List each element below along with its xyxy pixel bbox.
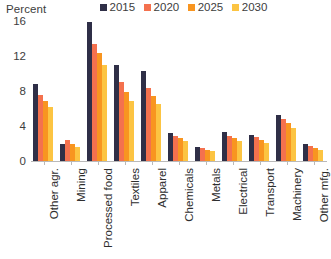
bar-group (87, 21, 107, 161)
chart-legend: 2015202020252030 (100, 2, 267, 14)
x-axis-category-label: Chemicals (184, 168, 196, 222)
y-axis-tick-label: 16 (0, 15, 26, 27)
legend-item[interactable]: 2030 (232, 2, 267, 14)
y-axis-tick-label: 4 (0, 120, 26, 132)
bar[interactable] (75, 147, 80, 161)
x-axis-category-label: Processed food (103, 168, 115, 248)
bar[interactable] (48, 107, 53, 161)
legend-swatch-icon (144, 4, 151, 11)
x-axis-tick-mark (260, 162, 261, 165)
x-axis-tick-mark (71, 162, 72, 165)
legend-item[interactable]: 2025 (188, 2, 223, 14)
y-axis-tick-label: 12 (0, 50, 26, 62)
x-axis-tick-mark (314, 162, 315, 165)
bar[interactable] (291, 128, 296, 161)
legend-item[interactable]: 2015 (100, 2, 135, 14)
bar-group (114, 21, 134, 161)
bar[interactable] (318, 150, 323, 161)
x-axis-category-label: Mining (76, 168, 88, 202)
chart-figure: Percent 2015202020252030 0481216 Other a… (0, 0, 331, 259)
bar-group (276, 21, 296, 161)
legend-swatch-icon (188, 4, 195, 11)
bar[interactable] (129, 101, 134, 161)
legend-item[interactable]: 2020 (144, 2, 179, 14)
legend-swatch-icon (232, 4, 239, 11)
bar-group (60, 21, 80, 161)
x-axis-tick-mark (233, 162, 234, 165)
legend-label: 2015 (110, 2, 136, 14)
x-axis-tick-mark (44, 162, 45, 165)
x-axis-category-label: Other mfg. (319, 168, 331, 222)
bar[interactable] (210, 151, 215, 161)
bar-group (222, 21, 242, 161)
y-axis-unit-label: Percent (6, 3, 46, 15)
bar-group (168, 21, 188, 161)
bar[interactable] (264, 143, 269, 161)
x-axis-category-label: Other agr. (49, 168, 61, 219)
bar-group (33, 21, 53, 161)
bar-group (249, 21, 269, 161)
x-axis-tick-mark (152, 162, 153, 165)
bar[interactable] (156, 104, 161, 161)
x-axis-category-label: Textiles (130, 168, 142, 206)
legend-label: 2020 (154, 2, 180, 14)
x-axis-tick-mark (206, 162, 207, 165)
bar[interactable] (183, 141, 188, 161)
x-axis-labels: Other agr.MiningProcessed foodTextilesAp… (31, 166, 327, 259)
bar[interactable] (237, 141, 242, 161)
x-axis-tick-mark (125, 162, 126, 165)
bar-groups-container (31, 20, 327, 161)
x-axis-category-label: Apparel (157, 168, 169, 208)
bar-group (141, 21, 161, 161)
chart-header: Percent 2015202020252030 (0, 0, 331, 20)
legend-label: 2030 (242, 2, 268, 14)
legend-label: 2025 (198, 2, 224, 14)
x-axis-tick-mark (179, 162, 180, 165)
plot-area: 0481216 (0, 20, 331, 166)
bar[interactable] (102, 65, 107, 161)
x-axis-category-label: Transport (265, 168, 277, 217)
x-axis-category-label: Machinery (292, 168, 304, 221)
y-axis-tick-label: 0 (0, 155, 26, 167)
x-axis-category-label: Electrical (238, 168, 250, 215)
x-axis-tick-mark (287, 162, 288, 165)
legend-swatch-icon (100, 4, 107, 11)
x-axis-tick-mark (98, 162, 99, 165)
x-axis-category-label: Metals (211, 168, 223, 202)
bar-group (195, 21, 215, 161)
y-axis-tick-label: 8 (0, 85, 26, 97)
bar-group (303, 21, 323, 161)
